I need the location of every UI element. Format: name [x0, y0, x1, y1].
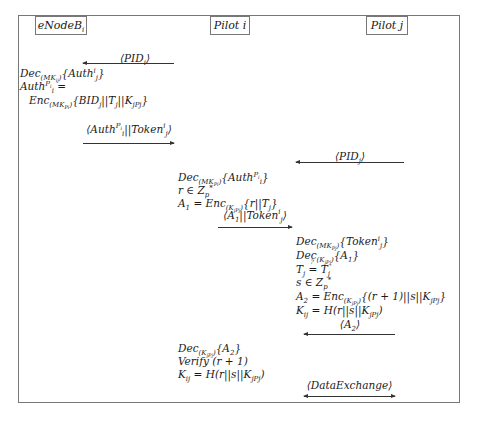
- entity-pilot-j: Pilot j: [366, 16, 408, 35]
- pilot-j-step-2: Dec(KjPj){A1}: [296, 250, 359, 262]
- message-label-a1-token: ⟨A1||Tokenij⟩: [218, 208, 292, 224]
- entity-pilot-i-label: Pilot i: [214, 19, 247, 32]
- arrow-a1-token: [218, 227, 292, 228]
- pilot-j-step-3: Tj =? Tj': [296, 264, 332, 275]
- arrow-pid-i: [83, 63, 174, 64]
- enodeb-step-1: Dec(MKij){Authij}: [20, 68, 105, 80]
- entity-enodeb-label: eNodeBi: [38, 19, 85, 32]
- pilot-j-step-5: A2 = Enc(KjPj){(r + 1)||s||KjPj}: [296, 291, 446, 303]
- entity-enodeb: eNodeBi: [35, 16, 87, 35]
- pilot-i-step-4: Dec(KjPj){A2}: [178, 343, 241, 355]
- entity-pilot-i: Pilot i: [210, 16, 250, 35]
- message-label-a2: ⟨A2⟩: [325, 318, 375, 333]
- arrow-pid-j: [296, 162, 404, 163]
- arrow-a2: [304, 334, 395, 335]
- pilot-i-step-6: Kij = H(r||s||KjPj): [178, 369, 265, 380]
- pilot-j-step-4: s ∈ Zp*: [296, 277, 331, 288]
- pilot-j-step-6: Kij = H(r||s||KjPj): [296, 305, 383, 316]
- entity-pilot-j-label: Pilot j: [371, 19, 403, 32]
- enodeb-step-3: Enc(MKPi){BIDj||Tj||KjPj}: [29, 95, 148, 107]
- message-label-pid-i: ⟨PIDi⟩: [110, 52, 160, 67]
- arrow-data-exchange: [304, 396, 395, 397]
- pilot-j-step-1: Dec(MKPj){Tokenij}: [296, 236, 389, 248]
- pilot-i-step-1: Dec(MKPi){AuthPii}: [178, 172, 269, 184]
- message-label-auth-token: ⟨AuthPii||Tokenij⟩: [83, 122, 175, 138]
- pilot-i-step-5: Verify (r + 1): [178, 356, 248, 367]
- enodeb-step-2: AuthPii =: [20, 81, 66, 92]
- arrow-auth-token: [83, 143, 174, 144]
- message-label-data-exchange: ⟨DataExchange⟩: [304, 379, 395, 391]
- pilot-i-step-2: r ∈ Zp*: [178, 185, 213, 196]
